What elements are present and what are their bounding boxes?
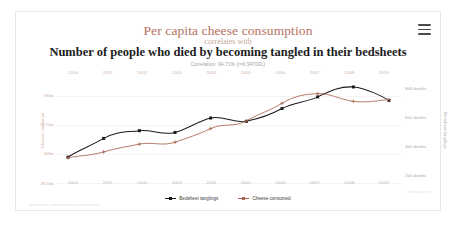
chart-lines (56, 81, 401, 183)
legend-item-bedsheet-tanglings[interactable]: Bedsheet tanglings (165, 196, 218, 201)
right-y-tick-400: 400 deaths (405, 144, 426, 149)
x-tick-bottom-2009: 2009 (367, 180, 402, 191)
data-point[interactable] (280, 102, 284, 106)
right-y-tick-800: 800 deaths (405, 86, 426, 91)
x-tick-bottom-2007: 2007 (298, 180, 333, 191)
x-tick-bottom-2004: 2004 (194, 180, 229, 191)
data-point[interactable] (102, 150, 106, 154)
data-point[interactable] (138, 129, 141, 132)
x-tick-bottom-2005: 2005 (229, 180, 264, 191)
series-line-left (68, 94, 389, 158)
x-tick-top-2002: 2002 (125, 70, 160, 81)
footer-credit-right: tylervigen.com (407, 190, 430, 194)
x-tick-top-2005: 2005 (229, 70, 264, 81)
x-tick-top-2009: 2009 (367, 70, 402, 81)
x-tick-bottom-2003: 2003 (160, 180, 195, 191)
x-tick-top-2006: 2006 (263, 70, 298, 81)
legend-marker-icon (165, 196, 176, 201)
x-axis-top: 2000200120022003200420052006200720082009 (56, 70, 401, 81)
data-point[interactable] (316, 92, 320, 96)
data-point[interactable] (316, 95, 319, 98)
x-tick-bottom-2006: 2006 (263, 180, 298, 191)
data-point[interactable] (209, 117, 212, 120)
data-point[interactable] (352, 100, 356, 104)
left-y-tick-28.5lbs: 28.5lbs (40, 181, 54, 186)
data-point[interactable] (281, 107, 284, 110)
x-tick-top-2004: 2004 (194, 70, 229, 81)
series-line-right (68, 87, 389, 157)
data-point[interactable] (173, 140, 177, 144)
right-axis-ticks: 800 deaths600 deaths400 deaths200 deaths (401, 70, 456, 190)
x-tick-top-2001: 2001 (91, 70, 126, 81)
x-tick-bottom-2002: 2002 (125, 180, 160, 191)
x-tick-bottom-2001: 2001 (91, 180, 126, 191)
x-tick-bottom-2000: 2000 (56, 180, 91, 191)
footer-credit-left[interactable]: tylervigen.com/spurious-correlations (29, 202, 100, 207)
x-tick-bottom-2008: 2008 (332, 180, 367, 191)
data-point[interactable] (102, 137, 105, 140)
legend-label: Cheese consumed (252, 196, 290, 201)
data-point[interactable] (352, 85, 355, 88)
left-y-tick-31.5lbs: 31.5lbs (40, 122, 54, 127)
legend-marker-icon (238, 196, 249, 201)
left-y-tick-33lbs: 33lbs (44, 93, 54, 98)
left-axis-ticks: 33lbs31.5lbs30lbs28.5lbs (16, 70, 56, 190)
chart-card: Per capita cheese consumption correlates… (15, 11, 441, 211)
data-point[interactable] (174, 131, 177, 134)
chart-legend: Bedsheet tanglingsCheese consumed (16, 196, 440, 201)
x-tick-top-2000: 2000 (56, 70, 91, 81)
left-y-tick-30lbs: 30lbs (44, 151, 54, 156)
legend-label: Bedsheet tanglings (179, 196, 218, 201)
x-axis-bottom: 2000200120022003200420052006200720082009 (56, 180, 401, 191)
data-point[interactable] (138, 142, 142, 146)
correlation-subtitle: Correlation: 94.71% (r=0.947091) (16, 62, 440, 67)
right-y-tick-600: 600 deaths (405, 115, 426, 120)
plot-area: 2000200120022003200420052006200720082009… (56, 70, 401, 190)
right-y-tick-200: 200 deaths (405, 173, 426, 178)
data-point[interactable] (209, 127, 213, 131)
chart-title-secondary: Number of people who died by becoming ta… (16, 45, 440, 60)
x-tick-top-2007: 2007 (298, 70, 333, 81)
x-tick-top-2003: 2003 (160, 70, 195, 81)
legend-item-cheese-consumed[interactable]: Cheese consumed (238, 196, 290, 201)
x-tick-top-2008: 2008 (332, 70, 367, 81)
